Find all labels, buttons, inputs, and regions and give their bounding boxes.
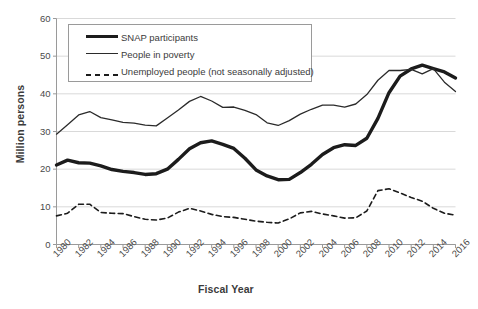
thick-solid-line-icon [86,32,118,42]
legend-item-people-in-poverty: People in poverty [86,48,194,60]
y-tick-label: 50 [25,51,51,61]
legend-label: People in poverty [121,49,194,60]
series-line-snap-participants [57,65,456,180]
legend-item-snap-participants: SNAP participants [86,31,198,43]
y-tick-label: 10 [25,202,51,212]
chart-legend: SNAP participants People in poverty Unem… [68,24,312,82]
legend-label: Unemployed people (not seasonally adjust… [121,66,314,77]
y-tick-label: 0 [25,240,51,250]
series-line-unemployed-people [57,189,456,223]
chart-container: Million persons Fiscal Year 605040302010… [0,0,478,309]
legend-item-unemployed-people: Unemployed people (not seasonally adjust… [86,65,314,77]
legend-label: SNAP participants [121,32,198,43]
y-tick-label: 30 [25,127,51,137]
dashed-line-icon [86,66,118,76]
x-axis-title: Fiscal Year [198,283,254,295]
y-tick-label: 60 [25,14,51,24]
y-tick-label: 40 [25,89,51,99]
thin-solid-line-icon [86,49,118,59]
y-tick-label: 20 [25,164,51,174]
